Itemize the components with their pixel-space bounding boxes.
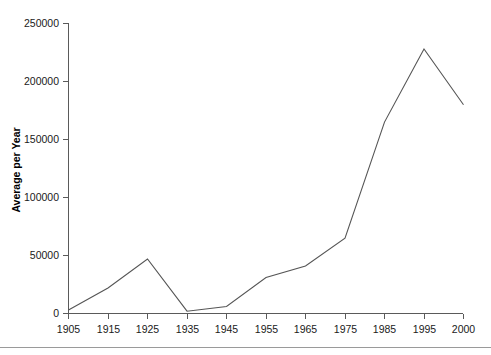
- y-tick-label: 100000: [24, 191, 59, 203]
- y-tick-label: 0: [53, 307, 59, 319]
- x-tick-label: 1925: [136, 323, 160, 335]
- footer-divider: [0, 347, 491, 348]
- y-tick-label: 250000: [24, 17, 59, 29]
- x-tick-label: 1955: [255, 323, 279, 335]
- x-tick-label: 1935: [176, 323, 200, 335]
- x-tick-label: 1945: [215, 323, 239, 335]
- y-axis-title: Average per Year: [10, 127, 22, 212]
- line-chart: 250000 200000 150000 100000 50000 0 1905…: [0, 0, 491, 355]
- chart-background: [0, 0, 491, 355]
- y-tick-label: 50000: [30, 249, 59, 261]
- x-tick-label: 2000: [452, 323, 476, 335]
- x-tick-label: 1985: [373, 323, 397, 335]
- x-tick-label: 1905: [57, 323, 81, 335]
- y-tick-label: 200000: [24, 75, 59, 87]
- x-tick-label: 1915: [97, 323, 121, 335]
- x-tick-label: 1965: [294, 323, 318, 335]
- x-tick-label: 1995: [413, 323, 437, 335]
- chart-canvas: 250000 200000 150000 100000 50000 0 1905…: [0, 0, 491, 355]
- x-tick-label: 1975: [334, 323, 358, 335]
- y-tick-label: 150000: [24, 133, 59, 145]
- x-axis-tick-labels: 1905 1915 1925 1935 1945 1955 1965 1975 …: [57, 323, 476, 335]
